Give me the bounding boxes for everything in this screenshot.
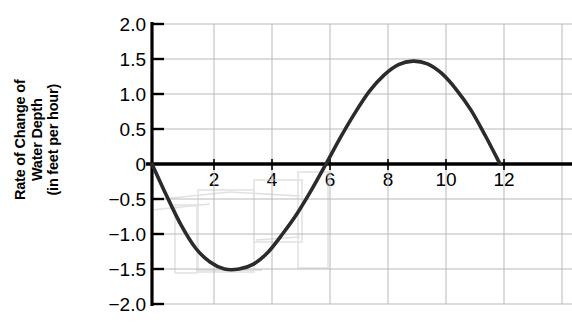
plot-area [0,0,572,330]
x-axis-zero-line [146,159,572,170]
chart-figure: Rate of Change of Water Depth (in feet p… [0,0,572,330]
